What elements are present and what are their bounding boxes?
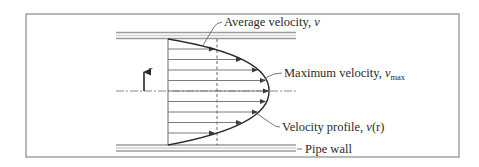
leader-average-velocity <box>202 22 222 47</box>
label-radial-axis: r <box>148 64 152 75</box>
velocity-arrows <box>168 49 268 133</box>
pipe-wall-top <box>116 33 296 39</box>
label-maximum-velocity: Maximum velocity, vmax <box>284 67 405 82</box>
velocity-profile-curve <box>168 39 269 145</box>
symbol-r: r <box>148 63 152 75</box>
pipe-wall-bottom <box>116 145 296 151</box>
symbol-v-average: v <box>314 15 320 29</box>
label-pipe-wall: Pipe wall <box>305 143 352 156</box>
label-velocity-profile: Velocity profile, v(r) <box>282 121 384 134</box>
leader-velocity-profile <box>256 113 280 127</box>
label-pipe-wall-text: Pipe wall <box>305 142 352 156</box>
label-velocity-profile-text: Velocity profile, <box>282 120 366 134</box>
label-maximum-velocity-text: Maximum velocity, <box>284 66 385 80</box>
diagram-canvas: Average velocity, v Maximum velocity, vm… <box>0 0 479 167</box>
label-average-velocity: Average velocity, v <box>224 16 320 29</box>
label-velocity-profile-suffix: (r) <box>372 120 385 134</box>
subscript-max: max <box>390 72 405 82</box>
label-average-velocity-text: Average velocity, <box>224 15 314 29</box>
